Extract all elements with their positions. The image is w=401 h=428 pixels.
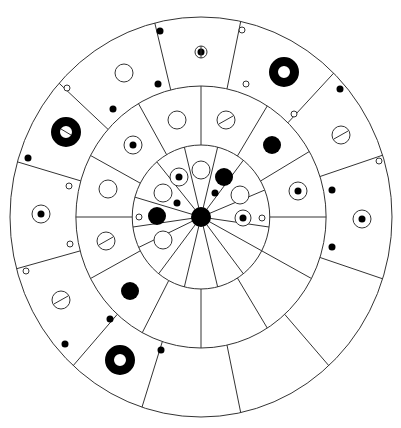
middle-divider [262,251,312,279]
middle-divider [237,278,267,328]
open-mark [136,214,142,220]
open-mark [99,180,117,198]
filled-dot-icon [107,316,114,323]
hub-icon [191,207,211,227]
open-mark [168,111,186,129]
concentric-wheel-svg [0,0,401,428]
ring-dot-mark [353,210,371,228]
dot-mark [263,136,281,154]
open-mark [239,27,245,33]
ring-dot-mark [124,136,142,154]
middle-divider [91,155,141,183]
filled-dot-icon [25,155,32,162]
outer-divider [227,21,241,88]
outer-divider [320,257,383,278]
dot-mark [157,28,164,35]
open-mark [115,64,133,82]
dot-mark [174,200,181,207]
open-circle-icon [64,85,70,91]
filled-dot-icon [212,190,219,197]
open-mark [64,85,70,91]
outer-divider [17,162,80,181]
filled-dot-icon [110,106,117,113]
filled-dot-icon [62,341,69,348]
thick-ring-slot-mark [56,122,77,143]
dot-mark [110,106,117,113]
open-mark [154,184,172,202]
open-circle-icon [115,64,133,82]
open-mark [243,81,249,87]
open-circle-icon [168,111,186,129]
open-circle-icon [154,184,172,202]
wheel-diagram [0,0,401,428]
dot-mark [215,168,233,186]
open-circle-icon [376,158,382,164]
open-circle-icon [259,215,265,221]
dot-mark [329,244,336,251]
open-circle-icon [67,241,73,247]
ring-center-dot-icon [359,216,366,223]
open-mark [192,161,210,179]
open-mark [291,111,297,117]
filled-dot-icon [155,81,162,88]
open-circle-icon [154,231,172,249]
middle-divider [261,152,310,182]
open-circle-icon [243,81,249,87]
filled-dot-icon [337,86,344,93]
slot-mark [217,111,235,129]
ring-dot-mark [32,205,50,223]
open-mark [154,231,172,249]
middle-divider [138,104,166,155]
dot-mark [212,190,219,197]
open-circle-icon [23,268,29,274]
filled-dot-icon [157,28,164,35]
slot-mark [332,126,350,144]
thick-ring-icon [274,62,295,83]
filled-dot-icon [215,168,233,186]
dot-mark [158,347,165,354]
hub-layer [191,207,211,227]
outer-divider [320,155,383,176]
open-circle-icon [66,183,72,189]
open-circle-icon [192,161,210,179]
middle-divider [142,281,168,333]
filled-dot-icon [148,207,166,225]
dot-mark [155,81,162,88]
thick-ring-slot-icon [61,129,71,135]
ring-center-dot-icon [240,215,247,222]
open-mark [231,186,249,204]
outer-divider [17,251,81,269]
open-circle-icon [291,111,297,117]
inner-spoke [201,217,262,251]
middle-divider [237,106,267,156]
filled-dot-icon [158,347,165,354]
dot-mark [62,341,69,348]
open-mark [66,183,72,189]
open-circle-icon [239,27,245,33]
filled-dot-icon [121,282,139,300]
thick-ring-icon [110,350,131,371]
filled-dot-icon [329,244,336,251]
ring-dot-mark [289,182,307,200]
dot-mark [25,155,32,162]
ring-dot-mark [170,168,188,186]
open-mark [67,241,73,247]
filled-dot-icon [329,187,336,194]
filled-dot-icon [263,136,281,154]
ring-dot-mark [235,210,251,226]
open-mark [259,215,265,221]
dot-mark [107,316,114,323]
dot-mark [329,187,336,194]
open-circle-icon [231,186,249,204]
middle-divider [91,251,141,279]
ring-center-dot-icon [38,211,45,218]
open-circle-icon [136,214,142,220]
thick-ring-mark [110,350,131,371]
dot-mark [121,282,139,300]
open-mark [376,158,382,164]
ring-dot-mark [195,46,207,58]
ring-center-dot-icon [130,142,137,149]
open-circle-icon [99,180,117,198]
outer-divider [227,345,241,412]
dot-mark [148,207,166,225]
